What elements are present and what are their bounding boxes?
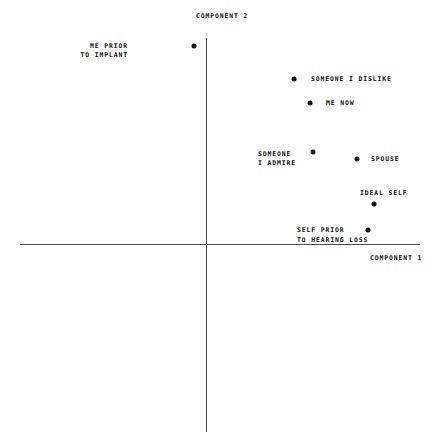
data-point-someone-i-dislike bbox=[292, 77, 297, 82]
data-label-someone-i-admire-line2: I ADMIRE bbox=[258, 159, 296, 169]
data-label-someone-i-admire-line2-text: I ADMIRE bbox=[258, 159, 296, 167]
data-label-someone-i-admire-line1: SOMEONE bbox=[258, 150, 291, 158]
data-label-ideal-self: IDEAL SELF bbox=[360, 189, 407, 199]
data-label-someone-i-dislike: SOMEONE I DISLIKE bbox=[311, 75, 392, 85]
data-label-self-prior-line1: SELF PRIOR bbox=[297, 226, 344, 236]
data-point-someone-i-admire bbox=[311, 150, 316, 155]
data-point-spouse bbox=[355, 157, 360, 162]
data-label-me-prior-to-implant-line2: TO IMPLANT bbox=[61, 51, 128, 61]
data-label-self-prior-line1-text: SELF PRIOR bbox=[297, 226, 344, 234]
data-point-ideal-self bbox=[372, 202, 377, 207]
data-label-self-prior-line2-text: TO HEARING LOSS bbox=[297, 236, 368, 244]
data-point-me-prior-to-implant bbox=[192, 44, 197, 49]
scatter-plot-canvas: COMPONENT 2 COMPONENT 1 ME PRIOR TO IMPL… bbox=[0, 0, 443, 445]
data-label-self-prior-line2: TO HEARING LOSS bbox=[297, 236, 368, 246]
data-label-me-now: ME NOW bbox=[326, 99, 355, 109]
data-label-me-prior-line2: TO IMPLANT bbox=[81, 51, 128, 59]
data-label-spouse: SPOUSE bbox=[371, 155, 400, 165]
vertical-axis-line bbox=[206, 38, 207, 432]
x-axis-title: COMPONENT 1 bbox=[370, 254, 422, 264]
data-point-self-prior-to-hearing-loss bbox=[366, 228, 371, 233]
y-axis-title: COMPONENT 2 bbox=[196, 12, 248, 22]
data-label-me-prior-line1: ME PRIOR bbox=[90, 42, 128, 50]
data-point-me-now bbox=[308, 101, 313, 106]
